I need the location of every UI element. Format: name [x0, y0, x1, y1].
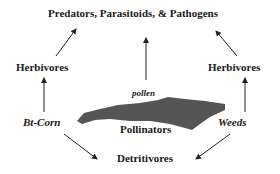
node-predators: Predators, Parasitoids, & Pathogens — [48, 8, 218, 19]
node-herbivores-left: Herbivores — [16, 62, 68, 73]
arrow-herbivores-right-to-predators — [216, 31, 237, 56]
node-bt-corn: Bt-Corn — [23, 117, 60, 128]
node-weeds: Weeds — [218, 117, 247, 128]
node-detritivores: Detritivores — [117, 153, 173, 164]
node-pollinators: Pollinators — [120, 124, 171, 135]
node-herbivores-right: Herbivores — [208, 62, 260, 73]
diagram-canvas — [0, 0, 280, 174]
arrow-btcorn-to-detritivores — [64, 134, 97, 159]
arrow-weeds-to-detritivores — [196, 134, 230, 159]
arrow-herbivores-left-to-predators — [56, 29, 76, 56]
node-pollen: pollen — [132, 89, 155, 98]
